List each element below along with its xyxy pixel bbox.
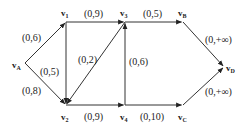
node-label-v2: v2 xyxy=(61,112,69,123)
node-label-vA: vA xyxy=(12,60,22,71)
node-label-vC: vC xyxy=(178,112,187,123)
edge-label: (0,5) xyxy=(40,66,59,78)
node-label-v4: v4 xyxy=(120,112,128,123)
flow-network-diagram: (0,6)(0,8)(0,5)(0,9)(0,2)(0,6)(0,9)(0,5)… xyxy=(0,0,248,133)
edge-vA-v1 xyxy=(25,23,65,63)
edge-label: (0,6) xyxy=(22,32,41,44)
edge-label: (0,+∞) xyxy=(205,86,232,98)
edge-label: (0,9) xyxy=(84,111,103,123)
edge-label: (0,9) xyxy=(84,8,103,20)
edge-label: (0,5) xyxy=(143,8,162,20)
edge-label: (0,2) xyxy=(78,54,97,66)
edge-labels: (0,6)(0,8)(0,5)(0,9)(0,2)(0,6)(0,9)(0,5)… xyxy=(22,8,232,123)
edge-label: (0,+∞) xyxy=(205,34,232,46)
edge-label: (0,8) xyxy=(22,85,41,97)
edge-label: (0,10) xyxy=(140,111,164,123)
node-label-vD: vD xyxy=(226,63,236,74)
edges xyxy=(25,22,223,105)
node-label-vB: vB xyxy=(178,8,187,19)
node-label-v3: v3 xyxy=(120,8,128,19)
edge-label: (0,6) xyxy=(129,56,148,68)
node-label-v1: v1 xyxy=(61,8,69,19)
